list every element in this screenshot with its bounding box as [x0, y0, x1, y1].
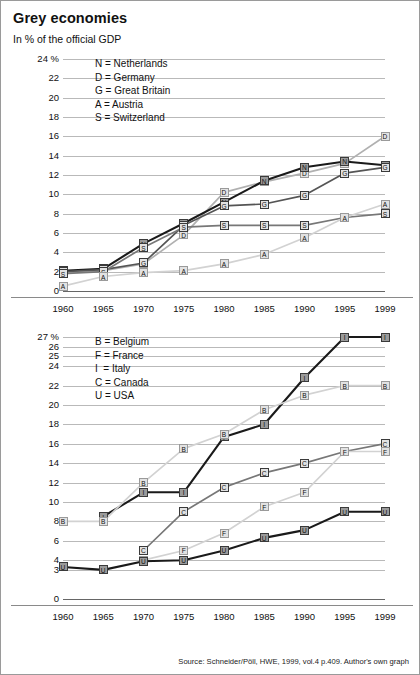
- lower-chart: 27 %2625242220181614121086430B = Belgium…: [1, 331, 420, 641]
- data-point-marker: U: [381, 507, 390, 516]
- page-subtitle: In % of the official GDP: [13, 33, 121, 45]
- data-point-marker: A: [381, 200, 390, 209]
- x-axis-tick-label: 1985: [244, 303, 284, 314]
- x-axis-rule: [11, 605, 413, 606]
- data-point-marker: B: [220, 430, 229, 439]
- chart-page: Grey economies In % of the official GDP …: [0, 0, 420, 675]
- data-point-marker: A: [59, 282, 68, 291]
- data-point-marker: D: [220, 188, 229, 197]
- series-line-U: [63, 512, 385, 570]
- data-point-marker: B: [381, 381, 390, 390]
- data-point-marker: D: [381, 132, 390, 141]
- data-point-marker: A: [300, 233, 309, 242]
- data-point-marker: F: [300, 488, 309, 497]
- x-axis-tick-label: 1970: [124, 611, 164, 622]
- x-axis-tick-label: 1985: [244, 611, 284, 622]
- data-point-marker: U: [139, 557, 148, 566]
- x-axis-tick-label: 1980: [204, 303, 244, 314]
- data-point-marker: F: [179, 546, 188, 555]
- data-point-marker: C: [139, 546, 148, 555]
- data-point-marker: F: [220, 529, 229, 538]
- data-point-marker: B: [260, 405, 269, 414]
- data-point-marker: B: [99, 517, 108, 526]
- x-axis-tick-label: 1999: [365, 303, 405, 314]
- data-point-marker: B: [59, 517, 68, 526]
- data-point-marker: I: [300, 373, 309, 382]
- data-point-marker: U: [300, 526, 309, 535]
- data-point-marker: B: [340, 381, 349, 390]
- data-point-marker: F: [381, 447, 390, 456]
- data-point-marker: F: [260, 502, 269, 511]
- data-point-marker: A: [220, 259, 229, 268]
- data-point-marker: S: [59, 269, 68, 278]
- data-point-marker: I: [139, 488, 148, 497]
- data-point-marker: F: [340, 447, 349, 456]
- data-point-marker: I: [260, 420, 269, 429]
- data-point-marker: C: [179, 507, 188, 516]
- x-axis-tick-label: 1970: [124, 303, 164, 314]
- data-point-marker: I: [340, 333, 349, 342]
- data-point-marker: A: [340, 213, 349, 222]
- data-point-marker: G: [300, 191, 309, 200]
- data-point-marker: A: [99, 272, 108, 281]
- data-point-marker: A: [179, 266, 188, 275]
- data-point-marker: U: [220, 546, 229, 555]
- data-point-marker: U: [340, 507, 349, 516]
- data-point-marker: S: [179, 223, 188, 232]
- data-point-marker: C: [220, 483, 229, 492]
- data-point-marker: B: [300, 391, 309, 400]
- data-point-marker: G: [340, 169, 349, 178]
- x-axis-tick-label: 1965: [83, 303, 123, 314]
- data-point-marker: N: [340, 157, 349, 166]
- data-point-marker: B: [139, 478, 148, 487]
- data-point-marker: S: [260, 221, 269, 230]
- series-line-A: [63, 204, 385, 286]
- data-point-marker: I: [179, 488, 188, 497]
- x-axis-tick-label: 1975: [164, 303, 204, 314]
- x-axis-rule: [11, 297, 413, 298]
- data-point-marker: I: [381, 333, 390, 342]
- x-axis-tick-label: 1960: [43, 611, 83, 622]
- x-axis-tick-label: 1960: [43, 303, 83, 314]
- data-point-marker: U: [179, 556, 188, 565]
- data-point-marker: C: [260, 468, 269, 477]
- x-axis-tick-label: 1975: [164, 611, 204, 622]
- data-point-marker: U: [99, 565, 108, 574]
- data-point-marker: G: [220, 201, 229, 210]
- x-axis-tick-label: 1980: [204, 611, 244, 622]
- upper-chart: 24 %2220181614121086420N = NetherlandsD …: [1, 53, 420, 331]
- data-point-marker: G: [260, 200, 269, 209]
- data-point-marker: G: [139, 258, 148, 267]
- data-point-marker: C: [300, 459, 309, 468]
- data-point-marker: S: [300, 221, 309, 230]
- data-point-marker: U: [59, 562, 68, 571]
- source-note: Source: Schneider/Pöll, HWE, 1999, vol.4…: [178, 657, 409, 666]
- x-axis-tick-label: 1990: [285, 303, 325, 314]
- chart-lines: [1, 331, 420, 641]
- x-axis-tick-label: 1999: [365, 611, 405, 622]
- x-axis-tick-label: 1965: [83, 611, 123, 622]
- data-point-marker: G: [381, 163, 390, 172]
- data-point-marker: A: [260, 250, 269, 259]
- data-point-marker: A: [139, 268, 148, 277]
- x-axis-tick-label: 1990: [285, 611, 325, 622]
- data-point-marker: B: [179, 444, 188, 453]
- data-point-marker: S: [381, 209, 390, 218]
- x-axis-tick-label: 1995: [325, 611, 365, 622]
- data-point-marker: S: [220, 221, 229, 230]
- page-title: Grey economies: [13, 10, 127, 26]
- data-point-marker: N: [260, 176, 269, 185]
- data-point-marker: S: [139, 243, 148, 252]
- data-point-marker: N: [300, 163, 309, 172]
- data-point-marker: U: [260, 533, 269, 542]
- x-axis-tick-label: 1995: [325, 303, 365, 314]
